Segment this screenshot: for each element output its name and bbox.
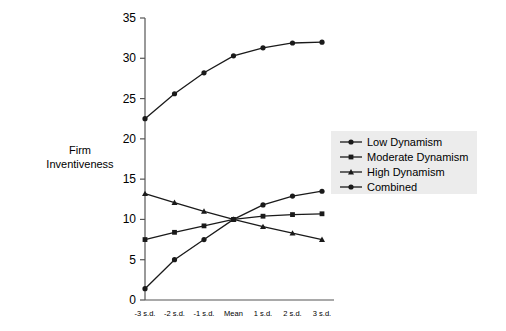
svg-text:-1 s.d.: -1 s.d.	[194, 309, 215, 318]
legend-item-moderate-dynamism[interactable]: Moderate Dynamism	[339, 149, 468, 164]
y-axis-title: Firm Inventiveness	[38, 143, 122, 171]
legend-marker-combined	[339, 181, 363, 193]
svg-text:15: 15	[123, 172, 137, 186]
svg-text:10: 10	[123, 212, 137, 226]
legend-item-low-dynamism[interactable]: Low Dynamism	[339, 134, 442, 149]
svg-text:-2 s.d.: -2 s.d.	[164, 309, 185, 318]
legend-marker-low-dynamism	[339, 136, 363, 148]
svg-text:1 s.d.: 1 s.d.	[254, 309, 272, 318]
chart-container: Firm Inventiveness 05101520253035-3 s.d.…	[0, 0, 506, 331]
svg-text:35: 35	[123, 11, 137, 25]
legend-item-high-dynamism[interactable]: High Dynamism	[339, 164, 445, 179]
chart-legend: Low Dynamism Moderate Dynamism High Dyna…	[331, 131, 477, 194]
legend-label-moderate-dynamism: Moderate Dynamism	[367, 151, 468, 163]
legend-label-combined: Combined	[367, 181, 417, 193]
legend-label-low-dynamism: Low Dynamism	[367, 136, 442, 148]
svg-text:Mean: Mean	[224, 309, 243, 318]
series-combined	[142, 40, 324, 122]
svg-text:0: 0	[129, 293, 136, 307]
legend-marker-moderate-dynamism	[339, 151, 363, 163]
svg-text:25: 25	[123, 92, 137, 106]
legend-marker-high-dynamism	[339, 166, 363, 178]
svg-text:-3 s.d.: -3 s.d.	[135, 309, 156, 318]
legend-label-high-dynamism: High Dynamism	[367, 166, 445, 178]
svg-text:5: 5	[129, 253, 136, 267]
y-axis-title-line-2: Inventiveness	[38, 157, 122, 171]
series-low-dynamism	[142, 189, 324, 292]
series-high-dynamism	[142, 191, 325, 242]
series-moderate-dynamism	[143, 211, 325, 242]
svg-text:2 s.d.: 2 s.d.	[283, 309, 301, 318]
y-axis-title-line-1: Firm	[38, 143, 122, 157]
svg-text:20: 20	[123, 132, 137, 146]
legend-item-combined[interactable]: Combined	[339, 179, 417, 194]
svg-text:30: 30	[123, 51, 137, 65]
svg-text:3 s.d.: 3 s.d.	[313, 309, 331, 318]
